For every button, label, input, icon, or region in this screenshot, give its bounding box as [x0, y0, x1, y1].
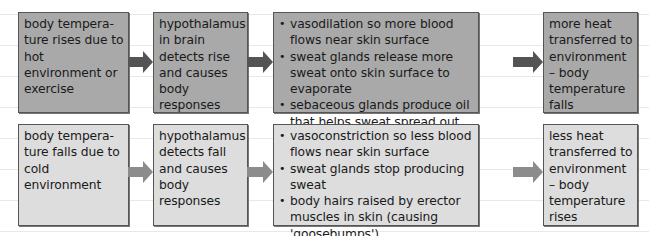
trigger-box-cold: body tempera-ture falls due to cold envi…	[18, 124, 129, 226]
detection-text: hypothalamus detects fall and causes bod…	[159, 129, 245, 208]
responses-box-cold: vasoconstriction so less blood flows nea…	[273, 124, 479, 226]
arrow-right-icon	[247, 160, 274, 184]
trigger-text: body tempera-ture rises due to hot envir…	[24, 17, 123, 96]
arrow-right-icon	[128, 50, 154, 74]
response-item: sweat glands stop producing sweat	[279, 161, 474, 194]
response-item: sweat glands release more sweat onto ski…	[279, 49, 474, 98]
arrow-right-icon	[128, 160, 154, 184]
trigger-box-hot: body tempera-ture rises due to hot envir…	[18, 12, 129, 113]
responses-box-hot: vasodilation so more blood flows near sk…	[273, 12, 479, 113]
outcome-text: less heat transferred to environment – b…	[549, 129, 632, 224]
arrow-right-icon	[513, 50, 544, 74]
response-item: vasodilation so more blood flows near sk…	[279, 16, 474, 49]
outcome-box-cold: less heat transferred to environment – b…	[543, 124, 638, 226]
outcome-text: more heat transferred to environment – b…	[549, 17, 632, 112]
trigger-text: body tempera-ture falls due to cold envi…	[24, 129, 120, 192]
detection-text: hypothalamus in brain detects rise and c…	[159, 17, 245, 112]
detection-box-hot: hypothalamus in brain detects rise and c…	[153, 12, 248, 113]
arrow-right-icon	[513, 160, 544, 184]
response-item: body hairs raised by erector muscles in …	[279, 193, 474, 236]
responses-list: vasoconstriction so less blood flows nea…	[279, 128, 474, 236]
arrow-right-icon	[247, 50, 274, 74]
outcome-box-hot: more heat transferred to environment – b…	[543, 12, 638, 113]
detection-box-cold: hypothalamus detects fall and causes bod…	[153, 124, 248, 226]
response-item: vasoconstriction so less blood flows nea…	[279, 128, 474, 161]
